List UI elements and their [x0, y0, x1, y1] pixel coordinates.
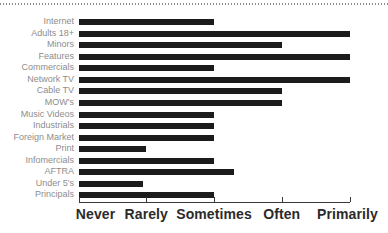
- bar: [79, 19, 215, 25]
- category-label: Commercials: [0, 62, 74, 73]
- horizontal-bar-chart: InternetAdults 18+MinorsFeaturesCommerci…: [0, 0, 388, 233]
- x-axis-tick-labels: NeverRarelySometimesOftenPrimarily: [0, 205, 388, 227]
- category-label: Minors: [0, 39, 74, 50]
- bar: [79, 100, 282, 106]
- bar: [79, 77, 350, 83]
- x-axis-tick: [146, 197, 147, 202]
- x-axis-line: [79, 202, 351, 203]
- bar: [79, 112, 215, 118]
- plot-area: [79, 17, 350, 202]
- x-axis-label: Primarily: [317, 205, 378, 223]
- bar: [79, 54, 350, 60]
- bar: [79, 135, 215, 141]
- bar: [79, 31, 350, 37]
- x-axis-tick: [350, 197, 351, 202]
- category-label: Features: [0, 51, 74, 62]
- bar: [79, 42, 282, 48]
- category-label: Industrials: [0, 120, 74, 131]
- bar: [79, 158, 215, 164]
- category-label: Infomercials: [0, 155, 74, 166]
- bar: [79, 88, 282, 94]
- category-label: Cable TV: [0, 85, 74, 96]
- category-label: Internet: [0, 16, 74, 27]
- x-axis-tick: [79, 197, 80, 202]
- x-axis-label: Sometimes: [176, 205, 252, 223]
- category-label: Music Videos: [0, 109, 74, 120]
- x-axis-label: Rarely: [125, 205, 168, 223]
- bar: [79, 169, 235, 175]
- bar: [79, 146, 147, 152]
- category-axis-labels: InternetAdults 18+MinorsFeaturesCommerci…: [0, 17, 74, 202]
- category-label: AFTRA: [0, 166, 74, 177]
- category-label: Print: [0, 143, 74, 154]
- bar: [79, 123, 215, 129]
- category-label: Network TV: [0, 74, 74, 85]
- category-label: Principals: [0, 189, 74, 200]
- bar: [79, 181, 143, 187]
- category-label: Under 5's: [0, 178, 74, 189]
- x-axis-label: Often: [263, 205, 300, 223]
- category-label: MOW's: [0, 97, 74, 108]
- bar: [79, 65, 215, 71]
- category-label: Adults 18+: [0, 28, 74, 39]
- category-label: Foreign Market: [0, 132, 74, 143]
- x-axis-label: Never: [76, 205, 115, 223]
- x-axis-tick: [282, 197, 283, 202]
- x-axis-tick: [214, 197, 215, 202]
